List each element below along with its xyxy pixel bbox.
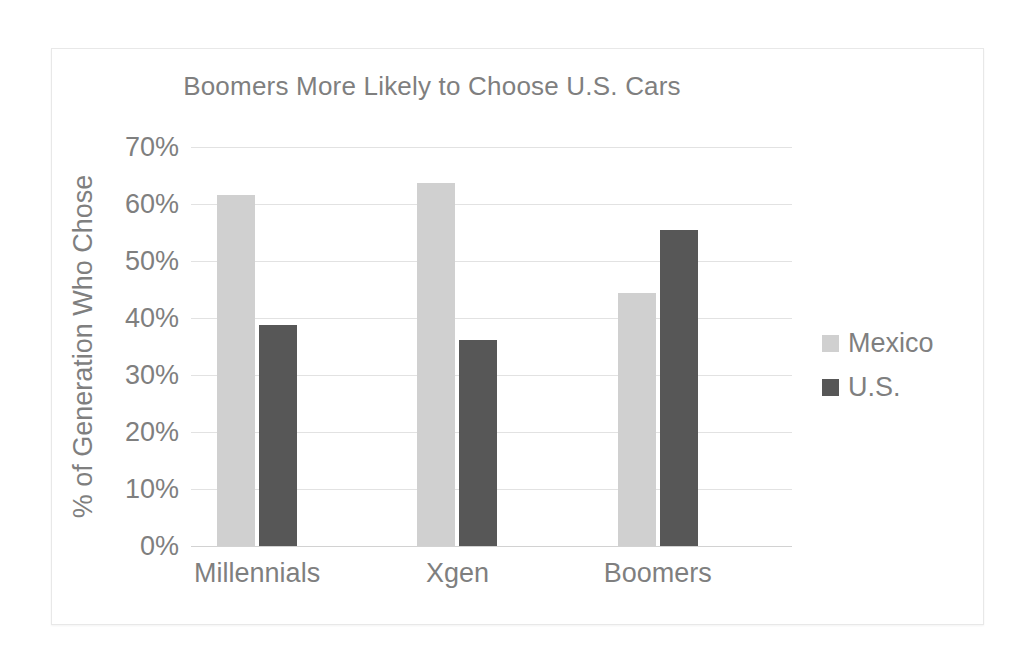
- bar-mexico-boomers[interactable]: [618, 293, 656, 546]
- legend-item-mexico[interactable]: Mexico: [822, 321, 934, 365]
- chart-title: Boomers More Likely to Choose U.S. Cars: [52, 71, 812, 102]
- bar-us-millennials[interactable]: [259, 325, 297, 546]
- y-axis-tick-label: 10%: [125, 476, 179, 503]
- plot-area: 70%60%50%40%30%20%10%0%MillennialsXgenBo…: [191, 147, 792, 546]
- gridline: [191, 204, 792, 205]
- legend-swatch-icon-mexico: [822, 335, 839, 352]
- x-axis-category-label: Xgen: [426, 560, 489, 587]
- gridline: [191, 546, 792, 547]
- y-axis-tick-label: 0%: [140, 533, 179, 560]
- chart-legend: Mexico U.S.: [822, 321, 934, 409]
- legend-label-mexico: Mexico: [848, 330, 934, 357]
- x-axis-category-label: Millennials: [194, 560, 320, 587]
- gridline: [191, 147, 792, 148]
- legend-item-us[interactable]: U.S.: [822, 365, 934, 409]
- y-axis-title-text: % of Generation Who Chose: [71, 175, 98, 519]
- bar-us-xgen[interactable]: [459, 340, 497, 546]
- y-axis-tick-label: 50%: [125, 248, 179, 275]
- legend-swatch-icon-us: [822, 379, 839, 396]
- y-axis-tick-label: 20%: [125, 419, 179, 446]
- bar-mexico-millennials[interactable]: [217, 195, 255, 546]
- y-axis-tick-label: 70%: [125, 134, 179, 161]
- gridline: [191, 318, 792, 319]
- y-axis-tick-label: 40%: [125, 305, 179, 332]
- x-axis-category-label: Boomers: [604, 560, 712, 587]
- bar-mexico-xgen[interactable]: [417, 183, 455, 546]
- y-axis-title: % of Generation Who Chose: [64, 97, 104, 596]
- chart-frame: Boomers More Likely to Choose U.S. Cars …: [51, 48, 984, 625]
- y-axis-tick-label: 60%: [125, 191, 179, 218]
- legend-label-us: U.S.: [848, 374, 901, 401]
- gridline: [191, 261, 792, 262]
- y-axis-tick-label: 30%: [125, 362, 179, 389]
- bar-us-boomers[interactable]: [660, 230, 698, 546]
